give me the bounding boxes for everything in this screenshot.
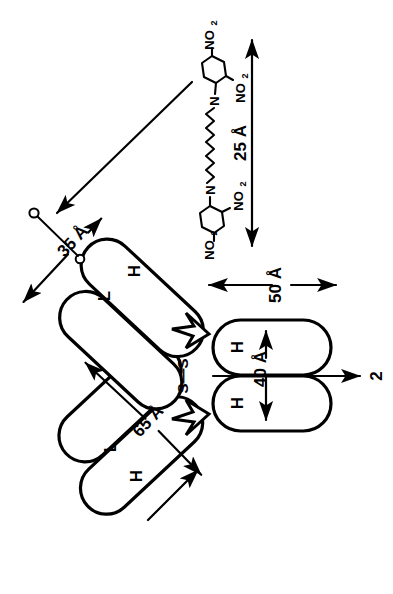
dimension-25A: 25 Å [231,40,252,246]
binding-site-end-circle [29,208,38,217]
label-fab-upper-heavy: H [125,265,144,277]
antibody-schematic-diagram: 25 Å 50 Å 40 Å 2 65 Å [0,0,393,594]
dimension-40A-label: 40 Å [251,351,270,387]
bottom-ring-hexagon [200,206,224,233]
no2-label-bottom-b: NO 2 [202,230,220,259]
bottom-ring-bond-to-no2-a [222,208,230,212]
no2-bottom-b-subscript: 2 [209,230,219,235]
dimension-50A-label: 50 Å [266,267,285,303]
label-fc-lower-heavy: H [228,397,247,409]
dimension-35A-line-up [88,219,101,233]
top-ring-hexagon [202,56,226,83]
hapten-to-binding-site-arrow [57,82,192,213]
label-fc-upper-heavy: H [228,341,247,353]
nitrogen-label-top: N [207,96,222,105]
label-fab-lower-light: L [101,442,120,452]
top-ring-bond-to-no2-b [226,76,233,80]
no2-label-top-a: NO 2 [202,20,220,49]
disulfide-bond-label: S—S [174,358,191,393]
no2-top-a-text: NO [202,30,217,50]
hapten-top-benzene-ring [202,48,233,94]
no2-label-bottom-a: NO 2 [231,181,249,210]
hapten-zigzag-chain [206,108,214,183]
top-ring-bond-to-nitrogen [215,83,216,94]
no2-bottom-a-subscript: 2 [238,181,248,186]
symmetry-axis-label: 2 [367,371,386,380]
no2-bottom-b-text: NO [202,240,217,260]
no2-bottom-a-text: NO [231,191,246,211]
label-fab-lower-heavy: H [127,470,146,482]
dimension-35A-line-down [24,254,68,302]
no2-top-a-subscript: 2 [209,20,219,25]
figure-root: 25 Å 50 Å 40 Å 2 65 Å [0,0,393,594]
no2-top-b-subscript: 2 [240,73,250,78]
dimension-25A-label: 25 Å [231,125,250,161]
no2-label-top-b: NO 2 [233,73,251,102]
nitrogen-label-bottom: N [203,185,218,194]
dimension-50A: 50 Å [209,267,336,303]
no2-top-b-text: NO [233,83,248,103]
label-fab-upper-light: L [95,291,114,301]
